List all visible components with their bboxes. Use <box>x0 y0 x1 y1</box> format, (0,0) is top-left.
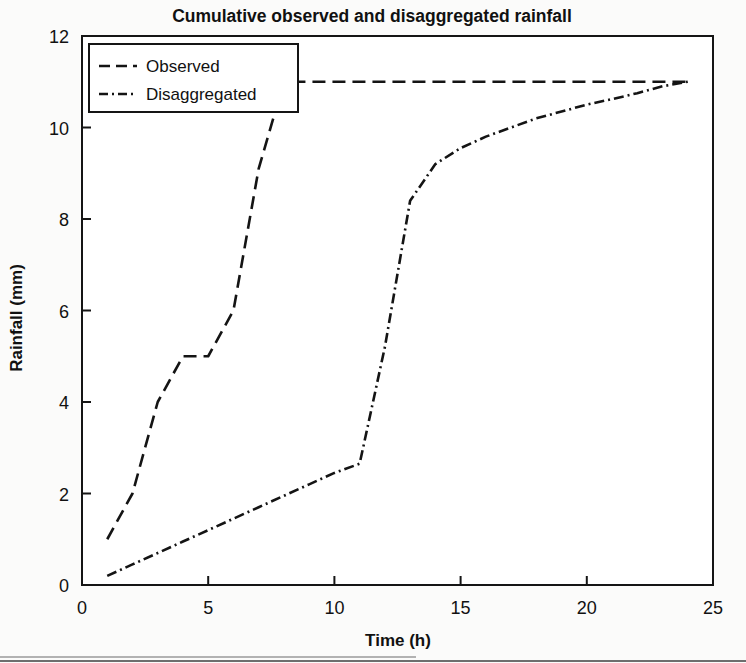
figure-container: Cumulative observed and disaggregated ra… <box>0 0 746 663</box>
plot-area-background <box>82 36 713 585</box>
plot-frame <box>82 36 713 585</box>
y-tick-label-6: 6 <box>59 302 69 322</box>
y-tick-label-8: 8 <box>59 210 69 230</box>
y-tick-label-12: 12 <box>49 27 69 47</box>
rainfall-line-chart: Cumulative observed and disaggregated ra… <box>0 0 746 663</box>
chart-title: Cumulative observed and disaggregated ra… <box>172 6 572 26</box>
legend-label-disaggregated: Disaggregated <box>146 85 257 104</box>
y-tick-label-10: 10 <box>49 119 69 139</box>
x-tick-label-20: 20 <box>577 598 597 618</box>
x-tick-label-0: 0 <box>77 598 87 618</box>
x-tick-label-5: 5 <box>203 598 213 618</box>
y-tick-label-2: 2 <box>59 485 69 505</box>
x-axis-label: Time (h) <box>365 631 431 650</box>
x-tick-label-10: 10 <box>324 598 344 618</box>
y-axis-label: Rainfall (mm) <box>7 264 26 372</box>
chart-legend: Observed Disaggregated <box>89 44 298 112</box>
x-tick-label-15: 15 <box>451 598 471 618</box>
y-tick-label-0: 0 <box>59 576 69 596</box>
legend-label-observed: Observed <box>146 57 220 76</box>
y-tick-label-4: 4 <box>59 393 69 413</box>
x-tick-label-25: 25 <box>703 598 723 618</box>
